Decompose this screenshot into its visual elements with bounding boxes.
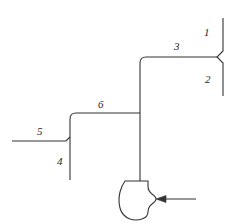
callout-label-6: 6 <box>98 99 104 110</box>
callout-label-2: 2 <box>205 74 211 85</box>
left-horizontal-line-5 <box>12 137 70 141</box>
diagram-canvas: 1 2 3 4 5 6 <box>0 0 237 224</box>
callout-label-1: 1 <box>204 27 210 38</box>
callout-label-5: 5 <box>37 126 43 137</box>
callout-label-3: 3 <box>174 41 180 52</box>
upper-horizontal-line-3 <box>140 57 217 113</box>
pump-symbol <box>119 181 156 220</box>
callout-label-4: 4 <box>57 156 63 167</box>
inlet-arrow-head <box>156 196 166 203</box>
flow-diagram-svg <box>0 0 237 224</box>
right-riser-line <box>217 18 223 96</box>
middle-horizontal-line-6 <box>70 113 140 180</box>
